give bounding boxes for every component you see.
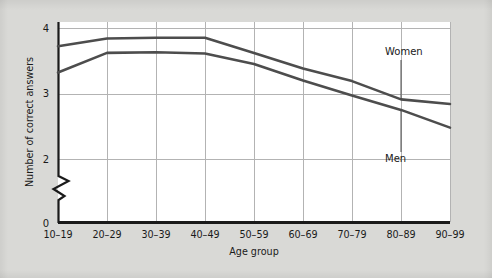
series-label-men: Men — [385, 153, 406, 164]
x-tick-label-6: 70–79 — [337, 229, 366, 240]
x-tick-label-5: 60–69 — [288, 229, 317, 240]
line-chart: 0234 10–1920–2930–3940–4950–5960–6970–79… — [0, 0, 492, 278]
y-tick-label-3: 3 — [43, 88, 49, 99]
y-axis-title: Number of correct answers — [24, 57, 35, 187]
x-tick-label-7: 80–89 — [386, 229, 415, 240]
y-tick-label-0: 0 — [43, 218, 49, 229]
x-tick-label-4: 50–59 — [239, 229, 268, 240]
series-label-women: Women — [385, 46, 423, 57]
x-tick-label-0: 10–19 — [43, 229, 72, 240]
x-tick-label-8: 90–99 — [435, 229, 464, 240]
x-tick-label-2: 30–39 — [141, 229, 170, 240]
x-tick-label-1: 20–29 — [92, 229, 121, 240]
x-tick-label-3: 40–49 — [190, 229, 219, 240]
y-tick-label-4: 4 — [43, 23, 49, 34]
y-axis-tick-labels: 0234 — [43, 23, 49, 229]
figure-container: 0234 10–1920–2930–3940–4950–5960–6970–79… — [0, 0, 492, 278]
y-tick-label-2: 2 — [43, 154, 49, 165]
x-axis-title: Age group — [229, 246, 278, 257]
x-axis-category-labels: 10–1920–2930–3940–4950–5960–6970–7980–89… — [43, 229, 464, 240]
